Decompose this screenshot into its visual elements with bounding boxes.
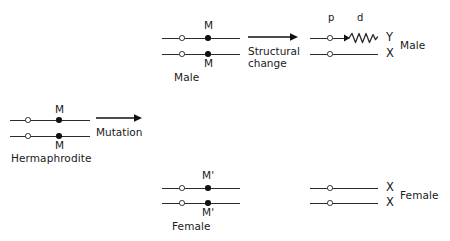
centromere-x-chromosome-female-bottom (327, 200, 333, 206)
chromatid-x-chromosome-female-bottom (310, 203, 378, 204)
chromosome-label-x-female-bottom: X (386, 196, 394, 209)
chromosome-label-x-female-top: X (386, 181, 394, 194)
caption-female-right: Female (400, 189, 439, 201)
centromere-x-chromosome-female-top (327, 185, 333, 191)
chromosome-group-female-right: X X Female (0, 0, 450, 241)
chromatid-x-chromosome-female-top (310, 188, 378, 189)
diagram-canvas: M M Hermaphrodite Mutation M M Male (0, 0, 450, 241)
